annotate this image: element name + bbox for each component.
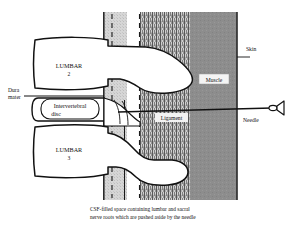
skin-surface-line (236, 12, 238, 200)
needle-label: Needle (243, 117, 259, 123)
skin-label: Skin (246, 46, 256, 52)
intervertebral-disc-label-box (41, 99, 99, 119)
caption-line-2: nerve roots which are pushed aside by th… (90, 214, 196, 220)
lumbar-puncture-diagram: Dura mater Intervertebral disc LUMBAR 2 … (0, 0, 294, 229)
ligament-label: Ligament (161, 115, 183, 121)
intervertebral-disc-label-line2: disc (51, 111, 61, 117)
muscle-label: Muscle (206, 77, 223, 83)
lumbar-3-label: LUMBAR (56, 146, 83, 153)
lumbar-2-number: 2 (68, 71, 71, 77)
figure-canvas: Dura mater Intervertebral disc LUMBAR 2 … (0, 0, 294, 229)
lumbar-2-label: LUMBAR (56, 62, 83, 69)
dura-mater-label-line2: mater (8, 94, 21, 100)
caption-line-1: CSF-filled space containing lumbar and s… (90, 206, 190, 212)
needle-collar (269, 105, 277, 110)
intervertebral-disc-label-line1: Intervertebral (54, 103, 87, 109)
dura-mater-label-line1: Dura (8, 87, 20, 93)
muscle-band (190, 12, 237, 200)
lumbar-3-number: 3 (68, 155, 71, 161)
